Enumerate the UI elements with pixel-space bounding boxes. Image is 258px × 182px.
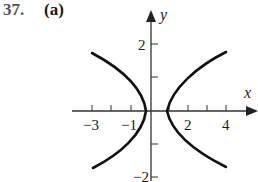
y-axis-arrow-icon (146, 10, 156, 22)
x-tick-label: −1 (121, 117, 137, 133)
y-axis-label: y (158, 6, 168, 24)
y-tick-label: 2 (138, 37, 146, 53)
graph: −3 −1 2 4 x 2 −2 y (0, 0, 258, 182)
y-axis: 2 −2 y (133, 6, 168, 182)
x-tick-label: 2 (184, 117, 192, 133)
x-axis: −3 −1 2 4 x (72, 84, 258, 133)
x-tick-label: −3 (83, 117, 99, 133)
hyperbola-curve (92, 52, 226, 168)
x-axis-arrow-icon (246, 106, 258, 116)
x-axis-label: x (243, 84, 251, 101)
x-tick-label: 4 (222, 117, 230, 133)
right-branch (167, 52, 226, 167)
y-tick-label: −2 (133, 169, 149, 182)
